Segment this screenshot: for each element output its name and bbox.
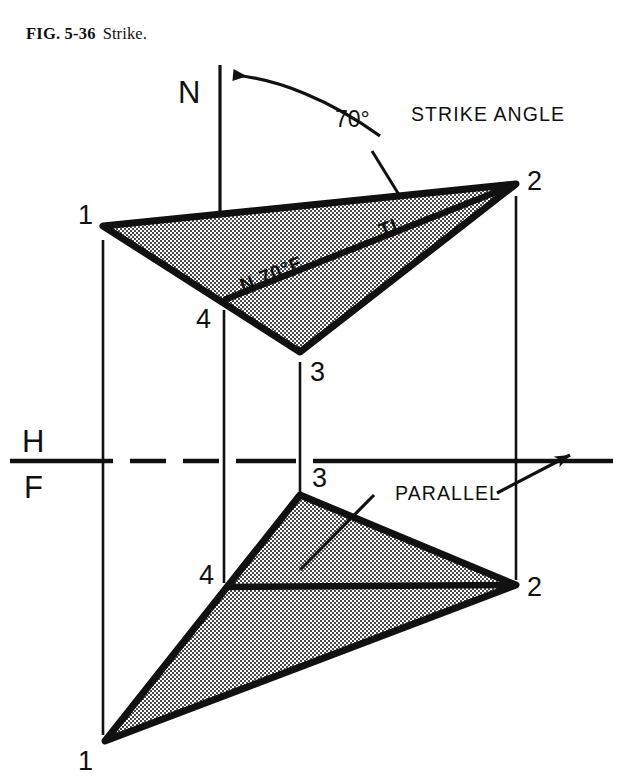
top-vertex-label-1: 1 [78, 200, 93, 230]
top-vertex-label-2: 2 [527, 166, 542, 196]
front-view-strike-line [227, 585, 516, 587]
north-label: N [178, 75, 200, 110]
frontal-plane-label: F [24, 470, 43, 505]
figure-root: FIG. 5-36Strike. [0, 0, 637, 781]
front-vertex-label-4: 4 [199, 560, 214, 590]
strike-diagram: N 70° STRIKE ANGLE 1 2 3 4 N 70°E TL H F [0, 0, 637, 781]
front-view-triangle [105, 495, 516, 741]
front-vertex-label-1: 1 [78, 746, 93, 776]
strike-angle-value: 70° [335, 106, 370, 132]
parallel-label: PARALLEL [395, 482, 501, 504]
horizontal-plane-label: H [22, 424, 44, 459]
front-vertex-label-3: 3 [312, 463, 327, 493]
top-vertex-label-3: 3 [310, 357, 325, 387]
front-view-group: PARALLEL 1 2 3 4 [78, 455, 570, 776]
strike-angle-label: STRIKE ANGLE [411, 103, 565, 125]
front-vertex-label-2: 2 [527, 572, 542, 602]
top-vertex-label-4: 4 [196, 304, 211, 334]
